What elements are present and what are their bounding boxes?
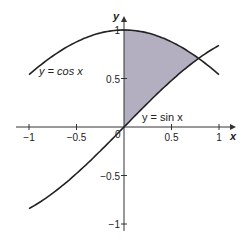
x-tick-label: 0.5 (165, 132, 179, 143)
y-axis-label: y (112, 10, 120, 22)
chart: −1−0.50.5110.5−0.5−1 x y 0 y = cos x y =… (0, 0, 241, 245)
y-tick-label: −1 (109, 219, 121, 230)
cos-curve-label: y = cos x (38, 65, 83, 77)
y-tick-label: 0.5 (106, 74, 120, 85)
x-tick-label: −0.5 (67, 132, 87, 143)
sin-curve-label: y = sin x (142, 111, 183, 123)
y-tick-label: −0.5 (100, 171, 120, 182)
x-axis-label: x (229, 130, 237, 142)
origin-label: 0 (115, 129, 121, 140)
x-tick-label: −1 (23, 132, 35, 143)
x-tick-label: 1 (216, 132, 222, 143)
y-axis-arrow-icon (121, 16, 127, 22)
